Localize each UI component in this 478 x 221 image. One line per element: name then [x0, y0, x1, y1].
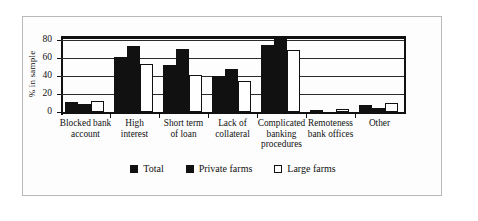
- legend-swatch-icon: [274, 165, 282, 173]
- bar-large-farms: [91, 101, 104, 112]
- bar-total: [212, 76, 225, 112]
- legend-item-private-farms[interactable]: Private farms: [186, 163, 253, 174]
- chart-legend: TotalPrivate farmsLarge farms: [23, 163, 443, 174]
- legend-label: Total: [143, 163, 163, 174]
- y-axis-tick: [57, 94, 61, 95]
- bar-large-farms: [336, 109, 349, 112]
- y-axis-tick-label: 80: [23, 36, 52, 46]
- bar-private-farms: [372, 108, 385, 112]
- y-axis-tick-label: 60: [23, 54, 52, 64]
- bar-private-farms: [274, 38, 287, 112]
- bar-total: [65, 102, 78, 112]
- y-axis-tick-label: 20: [23, 89, 52, 99]
- legend-label: Large farms: [287, 163, 335, 174]
- legend-label: Private farms: [199, 163, 253, 174]
- bar-private-farms: [176, 49, 189, 112]
- bar-large-farms: [140, 64, 153, 112]
- bar-total: [114, 57, 127, 112]
- bar-private-farms: [127, 46, 140, 112]
- chart-figure: % in sample 020406080 Blocked bankaccoun…: [22, 16, 442, 196]
- y-axis-tick: [57, 58, 61, 59]
- x-axis-label-line: bank offices: [299, 129, 362, 140]
- y-axis-tick: [57, 40, 61, 41]
- legend-item-total[interactable]: Total: [130, 163, 163, 174]
- bar-private-farms: [78, 104, 91, 112]
- bar-large-farms: [385, 103, 398, 112]
- bar-total: [261, 45, 274, 112]
- x-axis-label-line: Other: [348, 118, 411, 129]
- legend-swatch-icon: [186, 165, 194, 173]
- y-axis-tick-label: 40: [23, 71, 52, 81]
- y-axis-tick: [57, 76, 61, 77]
- gridline: [61, 58, 404, 59]
- bar-private-farms: [225, 69, 238, 112]
- bar-large-farms: [238, 81, 251, 112]
- y-axis-tick: [57, 112, 61, 113]
- bar-total: [163, 65, 176, 112]
- x-axis-label-line: procedures: [250, 139, 313, 150]
- legend-item-large-farms[interactable]: Large farms: [274, 163, 335, 174]
- bar-total: [310, 110, 323, 112]
- legend-swatch-icon: [130, 165, 138, 173]
- x-axis-label: Other: [348, 118, 411, 129]
- plot-right-edge: [404, 36, 406, 114]
- gridline: [61, 40, 404, 41]
- bar-total: [359, 105, 372, 112]
- bar-large-farms: [287, 50, 300, 112]
- y-axis-tick-label: 0: [23, 107, 52, 117]
- bar-large-farms: [189, 75, 202, 112]
